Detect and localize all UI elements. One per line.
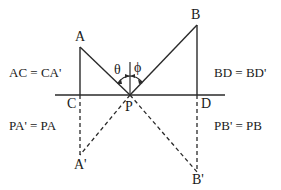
point-label-p: P bbox=[125, 100, 133, 114]
point-label-b: B bbox=[191, 8, 200, 22]
segment-pa-prime bbox=[80, 95, 130, 155]
point-label-a-prime: A' bbox=[74, 158, 87, 172]
equation-pb-prime-pb: PB' = PB bbox=[214, 119, 262, 132]
angle-label-theta: θ bbox=[114, 63, 121, 77]
segment-pb-prime bbox=[130, 95, 197, 172]
equation-pa-prime-pa: PA' = PA bbox=[9, 119, 56, 132]
point-label-b-prime: B' bbox=[192, 173, 204, 187]
point-label-d: D bbox=[201, 97, 211, 111]
diagram-canvas bbox=[0, 0, 281, 190]
arrowhead-theta-top bbox=[125, 74, 130, 78]
equation-bd-bd-prime: BD = BD' bbox=[214, 66, 266, 79]
equation-ac-ca-prime: AC = CA' bbox=[9, 66, 61, 79]
segment-ap bbox=[80, 47, 130, 95]
point-label-a: A bbox=[75, 30, 85, 44]
angle-label-phi: ϕ bbox=[134, 61, 141, 75]
point-label-c: C bbox=[67, 97, 76, 111]
